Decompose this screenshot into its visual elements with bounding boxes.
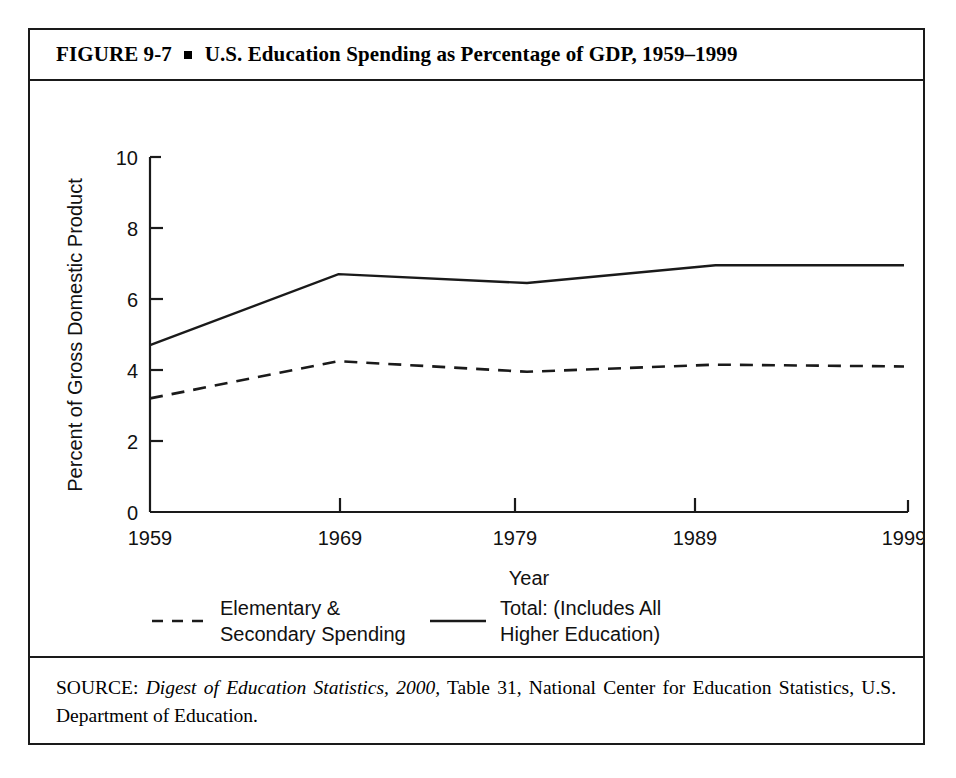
x-axis-tick-labels: 1959 1969 1979 1989 1999 — [128, 527, 923, 549]
y-tick-label-4: 4 — [127, 360, 138, 382]
x-axis-title: Year — [509, 567, 550, 589]
y-tick-label-2: 2 — [127, 431, 138, 453]
source-note-band: SOURCE: Digest of Education Statistics, … — [30, 656, 923, 743]
legend-label-total-line1: Total: (Includes All — [500, 597, 661, 619]
source-label: SOURCE: — [56, 677, 138, 698]
y-axis-ticks — [150, 228, 163, 441]
figure-title-text: U.S. Education Spending as Percentage of… — [205, 42, 738, 66]
chart-legend: Elementary & Secondary Spending Total: (… — [152, 597, 661, 645]
legend-label-total-line2: Higher Education) — [500, 623, 660, 645]
x-tick-label-1999: 1999 — [882, 527, 923, 549]
y-tick-label-6: 6 — [127, 289, 138, 311]
x-tick-label-1969: 1969 — [318, 527, 363, 549]
y-tick-label-0: 0 — [127, 502, 138, 524]
square-bullet-icon — [184, 51, 192, 59]
axes-frame — [150, 157, 908, 512]
figure-container: FIGURE 9-7 U.S. Education Spending as Pe… — [28, 28, 925, 745]
x-tick-label-1959: 1959 — [128, 527, 173, 549]
y-tick-label-10: 10 — [116, 147, 138, 169]
figure-title-band: FIGURE 9-7 U.S. Education Spending as Pe… — [30, 30, 923, 81]
legend-label-elementary-line1: Elementary & — [220, 597, 341, 619]
x-tick-label-1989: 1989 — [673, 527, 718, 549]
y-axis-tick-labels: 10 8 6 4 2 0 — [116, 147, 138, 524]
series-line-elementary-secondary — [150, 361, 904, 398]
y-axis-title: Percent of Gross Domestic Product — [64, 178, 86, 492]
figure-number: FIGURE 9-7 — [56, 42, 172, 66]
chart-area: 10 8 6 4 2 0 Percent of Gross Domestic P… — [30, 81, 923, 656]
source-publication-title: Digest of Education Statistics, 2000, — [146, 677, 440, 698]
legend-label-elementary-line2: Secondary Spending — [220, 623, 406, 645]
source-note: SOURCE: Digest of Education Statistics, … — [56, 674, 896, 729]
page-title: FIGURE 9-7 U.S. Education Spending as Pe… — [30, 42, 738, 67]
series-line-total — [150, 265, 904, 345]
x-axis-ticks — [340, 498, 695, 512]
line-chart: 10 8 6 4 2 0 Percent of Gross Domestic P… — [30, 81, 923, 656]
x-tick-label-1979: 1979 — [493, 527, 538, 549]
y-tick-label-8: 8 — [127, 218, 138, 240]
